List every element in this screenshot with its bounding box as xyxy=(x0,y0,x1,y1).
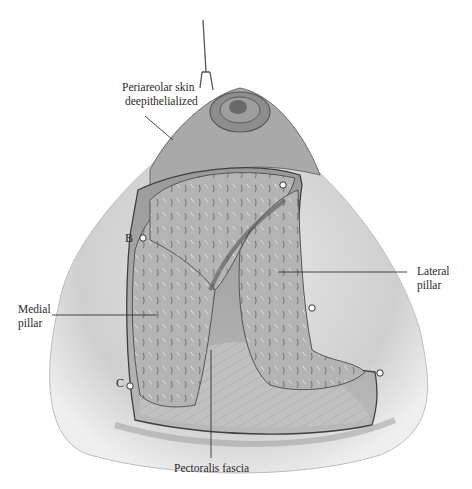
skin-hook xyxy=(200,20,213,90)
label-lateral-line1: Lateral xyxy=(417,264,450,278)
point-lateral-marker xyxy=(309,305,315,311)
point-b-label: B xyxy=(125,232,133,244)
label-medial-line2: pillar xyxy=(18,316,51,330)
nipple xyxy=(229,100,247,114)
illustration-figure: Periareolar skin deepithelialized Medial… xyxy=(0,0,472,489)
point-c-marker xyxy=(127,383,133,389)
label-medial-line1: Medial xyxy=(18,302,51,316)
label-periareolar: Periareolar skin deepithelialized xyxy=(122,80,198,108)
label-lateral-pillar: Lateral pillar xyxy=(417,264,450,292)
point-lower-lateral-marker xyxy=(377,370,383,376)
label-periareolar-line2: deepithelialized xyxy=(122,94,198,108)
label-pectoralis-fascia: Pectoralis fascia xyxy=(174,461,249,475)
label-medial-pillar: Medial pillar xyxy=(18,302,51,330)
breast-pillar-drawing xyxy=(0,0,472,489)
label-lateral-line2: pillar xyxy=(417,278,450,292)
periareolar-leader xyxy=(145,116,173,140)
point-upper-marker xyxy=(280,182,286,188)
point-b-marker xyxy=(140,235,146,241)
point-c-label: C xyxy=(116,377,124,389)
label-periareolar-line1: Periareolar skin xyxy=(122,80,198,94)
